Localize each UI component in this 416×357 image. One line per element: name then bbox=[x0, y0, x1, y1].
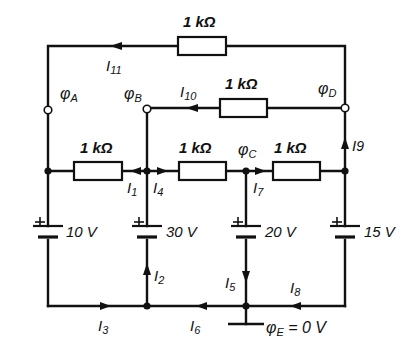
resistor-4-label: 1 kΩ bbox=[179, 140, 212, 155]
potential-d-label: φD bbox=[318, 81, 336, 99]
node-b-mid bbox=[143, 167, 150, 174]
potential-b-label: φB bbox=[124, 86, 142, 104]
potential-e-label: φE = 0 V bbox=[266, 320, 326, 338]
current-i5-label: I5 bbox=[225, 275, 235, 293]
arrow-i6-icon bbox=[196, 302, 207, 310]
arrow-i1-icon bbox=[130, 167, 141, 175]
resistor-d-b bbox=[220, 99, 267, 117]
source-20v-label: 20 V bbox=[265, 224, 296, 239]
resistor-top-label: 1 kΩ bbox=[183, 14, 216, 29]
arrow-i9-icon bbox=[341, 137, 349, 149]
current-i11-label: I11 bbox=[106, 58, 122, 76]
current-subscript: 7 bbox=[257, 186, 263, 198]
current-subscript: 11 bbox=[110, 64, 121, 76]
source-15v-label: 15 V bbox=[364, 224, 395, 239]
node-right-mid bbox=[341, 167, 348, 174]
potential-subscript: C bbox=[248, 148, 256, 160]
current-subscript: 10 bbox=[184, 90, 196, 102]
current-i2-label: I2 bbox=[154, 268, 164, 286]
resistor-1-label: 1 kΩ bbox=[80, 140, 113, 155]
terminal-a bbox=[44, 106, 52, 114]
current-subscript: 2 bbox=[158, 274, 164, 286]
resistor-7-label: 1 kΩ bbox=[274, 140, 307, 155]
current-i6-label: I6 bbox=[190, 318, 200, 336]
phi-symbol: φ bbox=[318, 80, 328, 97]
potential-subscript: E bbox=[276, 326, 283, 338]
resistor-7 bbox=[273, 162, 320, 180]
arrow-i4-icon bbox=[157, 167, 168, 175]
current-i1-label: I1 bbox=[127, 180, 137, 198]
current-i9-label: I9 bbox=[352, 138, 364, 153]
potential-a-label: φA bbox=[60, 86, 78, 104]
phi-symbol: φ bbox=[238, 141, 248, 158]
source-30v-label: 30 V bbox=[166, 224, 197, 239]
source-10v-label: 10 V bbox=[66, 224, 97, 239]
terminal-b bbox=[143, 105, 151, 113]
arrow-i11-icon bbox=[110, 42, 122, 50]
current-i7-label: I7 bbox=[253, 180, 263, 198]
current-subscript: 3 bbox=[102, 324, 108, 336]
node-e bbox=[242, 302, 249, 309]
node-c bbox=[242, 167, 249, 174]
potential-subscript: D bbox=[328, 87, 336, 99]
phi-symbol: φ bbox=[124, 85, 134, 102]
node-bottom-b bbox=[143, 302, 150, 309]
arrow-i7-icon bbox=[255, 167, 266, 175]
current-i4-label: I4 bbox=[153, 180, 163, 198]
resistor-d-b-label: 1 kΩ bbox=[225, 76, 258, 91]
current-subscript: 4 bbox=[157, 186, 163, 198]
arrow-i5-icon bbox=[242, 271, 250, 283]
current-i8-label: I8 bbox=[290, 280, 300, 298]
potential-subscript: B bbox=[134, 92, 141, 104]
current-subscript: 8 bbox=[294, 286, 300, 298]
current-i10-label: I10 bbox=[180, 84, 196, 102]
current-i3-label: I3 bbox=[98, 318, 108, 336]
current-subscript: 1 bbox=[131, 186, 137, 198]
potential-value: = 0 V bbox=[284, 319, 326, 336]
arrow-i3-icon bbox=[100, 302, 111, 310]
arrow-i10-icon bbox=[186, 104, 198, 112]
resistor-1 bbox=[74, 162, 122, 180]
current-subscript: 5 bbox=[229, 281, 235, 293]
phi-symbol: φ bbox=[60, 85, 70, 102]
current-subscript: 9 bbox=[356, 138, 364, 154]
potential-subscript: A bbox=[70, 92, 77, 104]
resistor-top bbox=[178, 37, 226, 55]
potential-c-label: φC bbox=[238, 142, 256, 160]
current-subscript: 6 bbox=[194, 324, 200, 336]
resistor-4 bbox=[179, 162, 226, 180]
node-left-mid bbox=[44, 167, 51, 174]
arrow-i2-icon bbox=[143, 263, 151, 275]
phi-symbol: φ bbox=[266, 319, 276, 336]
arrow-i8-icon bbox=[290, 302, 301, 310]
circuit-diagram bbox=[0, 0, 416, 357]
terminal-d bbox=[341, 104, 349, 112]
